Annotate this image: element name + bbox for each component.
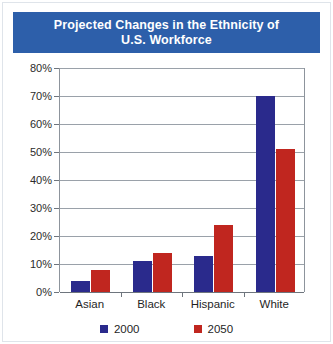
y-axis-tick-label: 0% [6, 286, 52, 298]
bar-black-2050 [153, 253, 172, 292]
y-axis-tick-label: 50% [6, 146, 52, 158]
legend-swatch-icon [100, 325, 108, 333]
x-axis-tick-label-white: White [260, 298, 289, 310]
y-axis-tick-label: 80% [6, 62, 52, 74]
legend-item-2000[interactable]: 2000 [100, 323, 140, 335]
y-axis-tick-mark [54, 292, 59, 293]
y-axis-tick-label: 10% [6, 258, 52, 270]
page-title: Projected Changes in the Ethnicity of U.… [54, 18, 279, 48]
x-axis-tick-label-black: Black [137, 298, 165, 310]
chart-figure: Projected Changes in the Ethnicity of U.… [0, 0, 333, 344]
bar-white-2050 [276, 149, 295, 292]
y-axis-tick-label: 60% [6, 118, 52, 130]
y-axis-tick-label: 20% [6, 230, 52, 242]
plot-area [59, 68, 305, 292]
gridline-80 [60, 68, 304, 69]
y-axis-tick-label: 40% [6, 174, 52, 186]
bar-black-2000 [133, 261, 152, 292]
legend-item-2050[interactable]: 2050 [194, 323, 234, 335]
y-axis-tick-label: 70% [6, 90, 52, 102]
legend-label: 2000 [114, 323, 140, 335]
bar-white-2000 [256, 96, 275, 292]
y-axis-tick-label: 30% [6, 202, 52, 214]
chart-title-banner: Projected Changes in the Ethnicity of U.… [13, 12, 320, 53]
bar-asian-2050 [91, 270, 110, 292]
bar-hispanic-2000 [194, 256, 213, 292]
legend-swatch-icon [194, 325, 202, 333]
x-axis-tick-mark [244, 292, 245, 297]
chart-legend: 20002050 [0, 323, 333, 335]
x-axis-tick-mark [182, 292, 183, 297]
legend-label: 2050 [208, 323, 234, 335]
x-axis-tick-label-hispanic: Hispanic [191, 298, 235, 310]
bar-asian-2000 [71, 281, 90, 292]
x-axis-tick-mark [121, 292, 122, 297]
bar-hispanic-2050 [214, 225, 233, 292]
x-axis-tick-label-asian: Asian [75, 298, 104, 310]
